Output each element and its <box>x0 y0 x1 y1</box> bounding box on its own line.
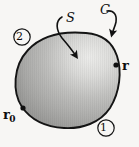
label-region-two: 2 <box>16 31 23 42</box>
contour-surface-figure: r0 r S C 2 1 <box>0 0 139 147</box>
label-region-one: 1 <box>100 122 107 133</box>
label-contour-c: C <box>100 3 110 16</box>
label-r0: r0 <box>3 108 16 124</box>
point-marker-r <box>113 62 118 67</box>
point-marker-r0 <box>20 105 25 110</box>
label-r: r <box>122 59 129 72</box>
label-r0-subscript: 0 <box>9 114 15 124</box>
label-surface-s: S <box>66 11 75 24</box>
